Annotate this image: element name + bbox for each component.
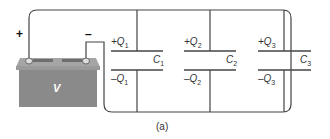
cap-index: 1 xyxy=(160,60,164,67)
c3-label: C3 xyxy=(300,55,311,67)
c3-top-charge: +Q3 xyxy=(258,37,276,49)
c1-label: C1 xyxy=(153,55,164,67)
c2-label: C2 xyxy=(226,55,237,67)
charge-index: 1 xyxy=(124,79,128,86)
charge-index: 2 xyxy=(198,42,202,49)
c1-top-charge: +Q1 xyxy=(111,37,129,49)
charge-index: 1 xyxy=(125,42,129,49)
charge-text: –Q xyxy=(258,73,271,84)
battery-voltage-label: V xyxy=(53,83,60,94)
figure-caption: (a) xyxy=(156,122,168,132)
circuit-diagram xyxy=(0,0,330,139)
c2-bottom-charge: –Q2 xyxy=(184,74,201,86)
cap-index: 2 xyxy=(233,60,237,67)
c3-bottom-charge: –Q3 xyxy=(258,74,275,86)
charge-text: +Q xyxy=(111,36,125,47)
c1-bottom-charge: –Q1 xyxy=(111,74,128,86)
charge-text: +Q xyxy=(184,36,198,47)
negative-terminal-sign: – xyxy=(85,28,92,40)
positive-terminal-sign: + xyxy=(16,28,23,40)
charge-index: 2 xyxy=(197,79,201,86)
charge-index: 3 xyxy=(272,42,276,49)
cap-index: 3 xyxy=(307,60,311,67)
charge-index: 3 xyxy=(271,79,275,86)
charge-text: –Q xyxy=(111,73,124,84)
charge-text: –Q xyxy=(184,73,197,84)
c2-top-charge: +Q2 xyxy=(184,37,202,49)
charge-text: +Q xyxy=(258,36,272,47)
